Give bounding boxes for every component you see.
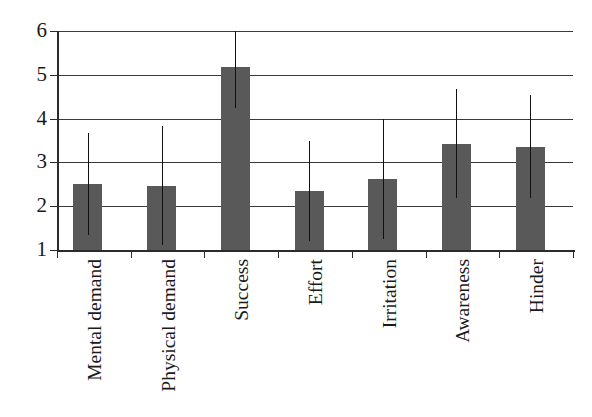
error-bar-hinder xyxy=(530,95,531,199)
y-tick-label-6: 6 xyxy=(25,20,47,41)
error-bar-mental-demand xyxy=(88,133,89,235)
category-label-text: Mental demand xyxy=(85,259,105,381)
x-tick-3 xyxy=(278,250,279,258)
x-tick-5 xyxy=(426,250,427,258)
y-tick-label-3: 3 xyxy=(25,151,47,172)
error-bar-irritation xyxy=(383,119,384,239)
x-axis-line xyxy=(57,250,575,252)
category-label-text: Awareness xyxy=(453,259,473,343)
category-label-text: Physical demand xyxy=(159,259,179,392)
category-label-text: Effort xyxy=(306,259,326,305)
x-tick-7 xyxy=(573,250,574,258)
category-label-text: Hinder xyxy=(527,259,547,313)
y-tick-label-1: 1 xyxy=(25,239,47,260)
x-tick-0 xyxy=(57,250,58,258)
category-label-text: Irritation xyxy=(380,259,400,328)
y-tick-label-5: 5 xyxy=(25,64,47,85)
error-bar-effort xyxy=(309,141,310,242)
error-bar-physical-demand xyxy=(162,126,163,245)
bar-chart: 123456 Mental demandPhysical demandSucce… xyxy=(0,0,592,417)
category-label-text: Success xyxy=(232,259,252,321)
error-bar-awareness xyxy=(456,89,457,198)
error-bar-success xyxy=(235,31,236,108)
y-tick-label-4: 4 xyxy=(25,108,47,129)
x-tick-1 xyxy=(131,250,132,258)
x-tick-4 xyxy=(352,250,353,258)
x-tick-2 xyxy=(204,250,205,258)
x-tick-6 xyxy=(499,250,500,258)
plot-area xyxy=(57,31,573,250)
y-tick-label-2: 2 xyxy=(25,195,47,216)
